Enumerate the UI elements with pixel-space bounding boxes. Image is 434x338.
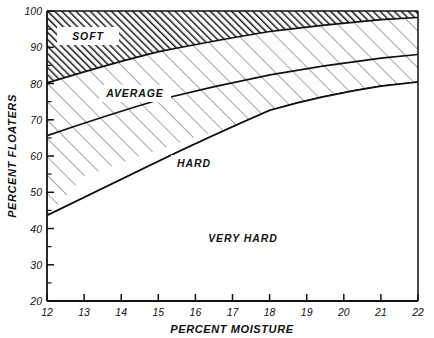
region-label-average: AVERAGE bbox=[105, 87, 164, 99]
region-label-average-group: AVERAGE bbox=[99, 85, 171, 102]
region-label-hard: HARD bbox=[177, 157, 211, 169]
y-tick-label: 90 bbox=[30, 41, 42, 53]
x-tick-label: 20 bbox=[337, 306, 350, 318]
region-label-hard-group: HARD bbox=[171, 155, 217, 172]
y-tick-label: 80 bbox=[30, 78, 42, 90]
x-tick-label: 18 bbox=[264, 306, 276, 318]
region-label-very-hard: VERY HARD bbox=[208, 232, 278, 244]
y-tick-label: 60 bbox=[30, 150, 42, 162]
x-tick-label: 16 bbox=[190, 306, 202, 318]
region-label-soft-group: SOFT bbox=[57, 27, 119, 45]
region-label-veryhard-group: VERY HARD bbox=[208, 232, 278, 244]
y-axis-title: PERCENT FLOATERS bbox=[6, 94, 18, 218]
x-tick-label: 12 bbox=[41, 306, 53, 318]
x-tick-label: 13 bbox=[78, 306, 90, 318]
y-tick-label: 100 bbox=[24, 5, 42, 17]
x-tick-label: 15 bbox=[152, 306, 164, 318]
x-tick-label: 21 bbox=[374, 306, 387, 318]
y-tick-label: 50 bbox=[30, 186, 42, 198]
region-label-soft: SOFT bbox=[72, 30, 104, 42]
x-tick-label: 14 bbox=[115, 306, 127, 318]
x-axis-title: PERCENT MOISTURE bbox=[170, 323, 293, 335]
y-tick-label: 70 bbox=[30, 114, 42, 126]
y-tick-label: 40 bbox=[30, 223, 42, 235]
y-tick-label: 30 bbox=[30, 259, 42, 271]
x-tick-label: 17 bbox=[227, 306, 240, 318]
percent-floaters-vs-percent-moisture-chart: 100 90 80 70 60 50 40 30 20 12 13 14 15 … bbox=[0, 0, 434, 338]
x-tick-label: 22 bbox=[411, 306, 424, 318]
chart-page: 100 90 80 70 60 50 40 30 20 12 13 14 15 … bbox=[0, 0, 434, 338]
x-tick-label: 19 bbox=[301, 306, 313, 318]
